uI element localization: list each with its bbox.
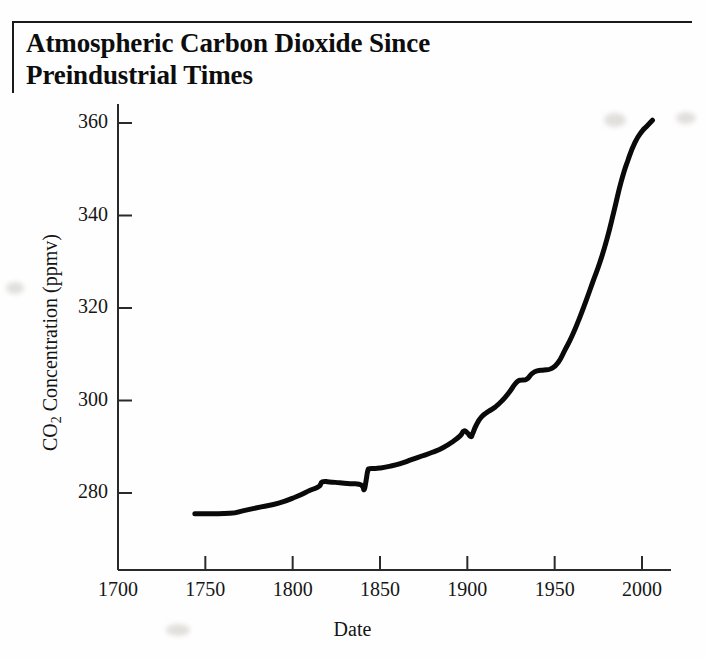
x-axis-tick-label: 2000 (607, 578, 677, 601)
y-axis-title-prefix: CO (39, 423, 61, 451)
y-axis-title: CO2 Concentration (ppmv) (39, 173, 64, 513)
x-axis-tick-label: 1750 (170, 578, 240, 601)
x-axis-tick-label: 1900 (432, 578, 502, 601)
axes (118, 104, 671, 570)
x-axis-tick-label: 1700 (83, 578, 153, 601)
co2-data-line (195, 120, 653, 514)
co2-line-chart: 280300320340360 170017501800185019001950… (0, 0, 705, 658)
figure-page: Atmospheric Carbon Dioxide Since Preindu… (0, 0, 705, 658)
y-axis-tick-label: 360 (50, 110, 108, 133)
x-axis-title: Date (0, 618, 705, 641)
y-axis-ticks (118, 123, 132, 493)
x-axis-tick-label: 1800 (258, 578, 328, 601)
y-axis-title-suffix: Concentration (ppmv) (39, 234, 61, 416)
x-axis-ticks (118, 556, 642, 570)
chart-plot-svg (0, 0, 705, 658)
x-axis-tick-label: 1950 (520, 578, 590, 601)
y-axis-title-subscript: 2 (49, 416, 64, 423)
x-axis-tick-label: 1850 (345, 578, 415, 601)
